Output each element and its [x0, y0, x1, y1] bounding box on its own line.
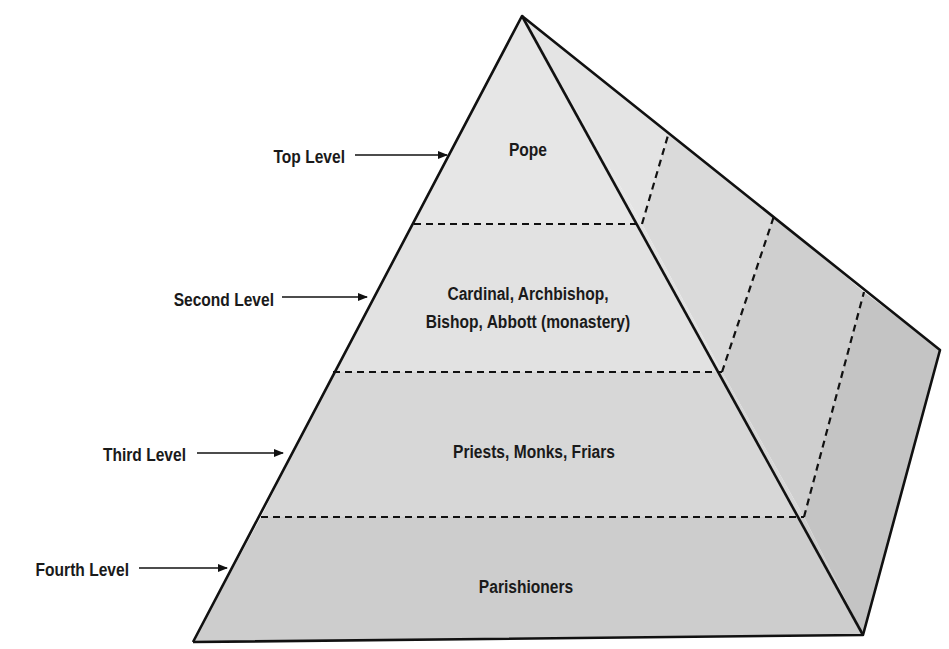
church-hierarchy-diagram: Pope Cardinal, Archbishop, Bishop, Abbot…	[0, 0, 949, 649]
label-fourth-level: Fourth Level	[36, 559, 129, 581]
label-second-level: Second Level	[174, 289, 274, 311]
pyramid-svg: Pope Cardinal, Archbishop, Bishop, Abbot…	[0, 0, 949, 649]
level-3-content: Priests, Monks, Friars	[453, 441, 615, 463]
label-top-level: Top Level	[273, 146, 345, 168]
label-third-level: Third Level	[103, 444, 186, 466]
level-2-content-line2: Bishop, Abbott (monastery)	[426, 311, 630, 333]
level-1-content: Pope	[509, 139, 547, 161]
level-4-content: Parishioners	[479, 576, 573, 598]
level-2-content-line1: Cardinal, Archbishop,	[447, 283, 608, 305]
